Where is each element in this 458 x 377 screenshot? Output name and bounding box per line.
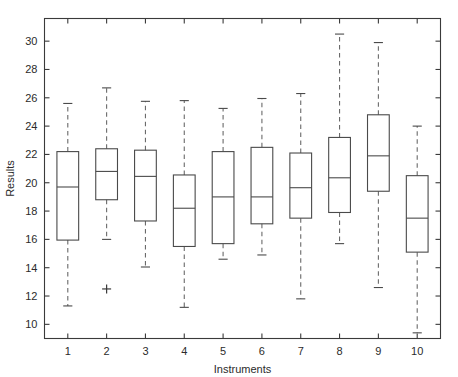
y-tick-label: 16 [25, 233, 37, 245]
y-tick-label: 10 [25, 318, 37, 330]
boxplot-box [406, 126, 428, 333]
boxplot-box [57, 103, 79, 305]
x-tick-label: 8 [336, 345, 342, 357]
x-tick-label: 10 [411, 345, 423, 357]
y-tick-label: 20 [25, 177, 37, 189]
x-tick-label: 2 [104, 345, 110, 357]
boxplot-box [173, 101, 195, 308]
y-tick-label: 28 [25, 63, 37, 75]
box-series [57, 34, 428, 333]
boxplot-box [290, 94, 312, 299]
y-tick-label: 14 [25, 262, 37, 274]
axes-group [45, 19, 441, 339]
box-iqr [57, 152, 79, 240]
x-tick-label: 7 [298, 345, 304, 357]
x-axis-title: Instruments [214, 363, 272, 375]
y-tick-label: 26 [25, 92, 37, 104]
box-iqr [368, 115, 390, 191]
box-iqr [406, 176, 428, 252]
y-tick-label: 12 [25, 290, 37, 302]
box-iqr [329, 137, 351, 212]
x-tick-label: 9 [375, 345, 381, 357]
box-iqr [96, 149, 118, 200]
x-tick-label: 1 [65, 345, 71, 357]
x-tick-label: 4 [181, 345, 187, 357]
boxplot-box [368, 43, 390, 288]
boxplot-box [329, 34, 351, 244]
y-tick-label: 30 [25, 35, 37, 47]
boxplot-figure: 1012141618202224262830 12345678910 Instr… [0, 0, 458, 377]
x-tick-label: 3 [142, 345, 148, 357]
boxplot-box [96, 88, 118, 294]
boxplot-box [212, 108, 234, 259]
y-axis-title: Results [4, 160, 16, 197]
x-axis-ticks: 12345678910 [65, 19, 424, 357]
box-iqr [173, 175, 195, 247]
boxplot-box [135, 101, 157, 267]
box-iqr [290, 153, 312, 218]
plot-frame [45, 19, 441, 339]
box-iqr [251, 147, 273, 223]
y-tick-label: 24 [25, 120, 37, 132]
x-tick-label: 5 [220, 345, 226, 357]
y-tick-label: 22 [25, 148, 37, 160]
plot-canvas: 1012141618202224262830 12345678910 Instr… [0, 0, 458, 377]
boxplot-box [251, 99, 273, 255]
box-iqr [135, 150, 157, 221]
box-iqr [212, 152, 234, 244]
y-tick-label: 18 [25, 205, 37, 217]
x-tick-label: 6 [259, 345, 265, 357]
